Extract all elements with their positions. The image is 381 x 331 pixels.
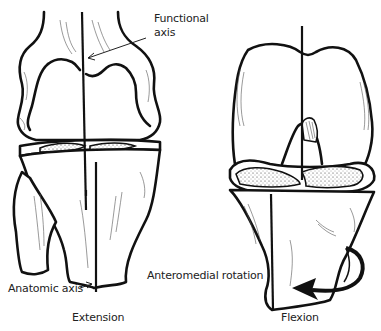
extension-knee (14, 12, 160, 292)
functional-axis-label-line1: Functional (154, 12, 209, 26)
functional-axis-label-line2: axis (154, 26, 209, 40)
anteromedial-rotation-label: Anteromedial rotation (147, 269, 263, 282)
extension-caption: Extension (72, 311, 124, 324)
knee-axis-diagram: Functional axis Anatomic axis Extension … (0, 0, 381, 331)
flexion-knee (230, 26, 374, 310)
functional-axis-label: Functional axis (154, 12, 209, 40)
anatomic-axis-label: Anatomic axis (8, 282, 83, 295)
flexion-caption: Flexion (281, 311, 319, 324)
